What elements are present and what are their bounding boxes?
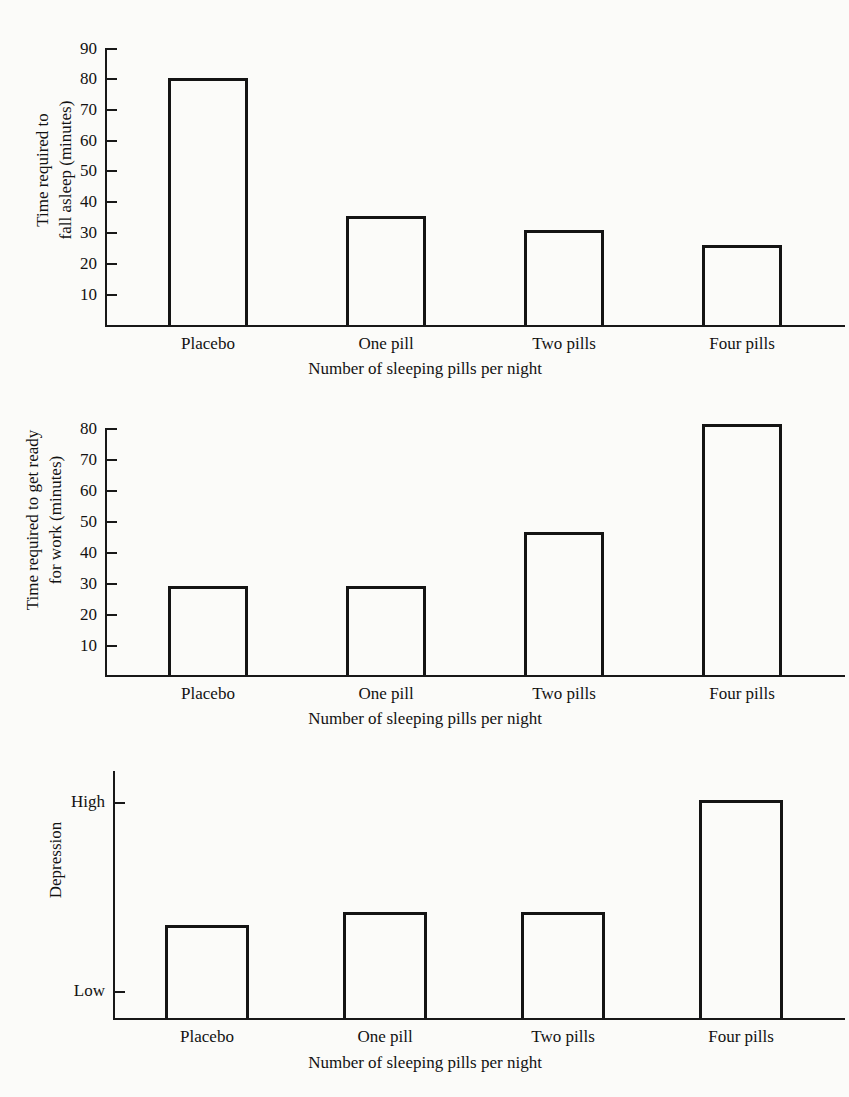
x-axis-line-2 [105,675,845,677]
x-axis-title-3: Number of sleeping pills per night [165,1053,685,1073]
y-tick-label-2-20: 20 [55,606,97,623]
y-tick-2-80 [105,428,117,430]
x-tick-label-2-two-pills: Two pills [484,684,644,704]
x-tick-label-3-one-pill: One pill [305,1027,465,1047]
bar-four-pills-2 [702,424,782,675]
y-tick-2-50 [105,521,117,523]
y-tick-2-40 [105,552,117,554]
x-tick-label-3-four-pills: Four pills [661,1027,821,1047]
bar-two-pills-2 [524,532,604,675]
y-tick-label-2-40: 40 [55,544,97,561]
y-axis-title-get-ready: Time required to get ready [22,370,43,670]
y-tick-2-20 [105,614,117,616]
y-tick-label-2-10: 10 [55,637,97,654]
y-axis-title-2-line1: Time required to get ready [22,370,43,670]
x-tick-label-3-two-pills: Two pills [483,1027,643,1047]
y-tick-3-low [113,991,125,993]
y-tick-2-70 [105,459,117,461]
y-axis-line-3 [113,771,115,1019]
y-tick-3-high [113,802,125,804]
y-tick-label-3-high: High [25,793,105,810]
x-tick-label-2-four-pills: Four pills [662,684,822,704]
y-tick-2-60 [105,490,117,492]
y-axis-title-3-line1: Depression [45,710,66,1010]
y-tick-label-2-80: 80 [55,420,97,437]
bar-two-pills-3 [521,912,605,1018]
y-tick-label-2-60: 60 [55,482,97,499]
figure-page: Time required to fall asleep (minutes) 9… [0,0,849,1097]
bar-one-pill-2 [346,586,426,675]
y-tick-label-2-30: 30 [55,575,97,592]
y-tick-label-2-50: 50 [55,513,97,530]
x-tick-label-2-placebo: Placebo [128,684,288,704]
y-axis-title-depression: Depression [45,710,66,1010]
chart-panel-depression: Depression High Low Placebo One pill Two… [0,0,849,380]
x-tick-label-2-one-pill: One pill [306,684,466,704]
bar-four-pills-3 [699,800,783,1018]
y-tick-2-30 [105,583,117,585]
x-axis-line-3 [113,1018,845,1020]
bar-one-pill-3 [343,912,427,1018]
x-axis-title-2: Number of sleeping pills per night [165,709,685,729]
bar-placebo-2 [168,586,248,675]
y-tick-label-2-70: 70 [55,451,97,468]
bar-placebo-3 [165,925,249,1018]
y-tick-2-10 [105,645,117,647]
x-tick-label-3-placebo: Placebo [127,1027,287,1047]
y-tick-label-3-low: Low [25,982,105,999]
